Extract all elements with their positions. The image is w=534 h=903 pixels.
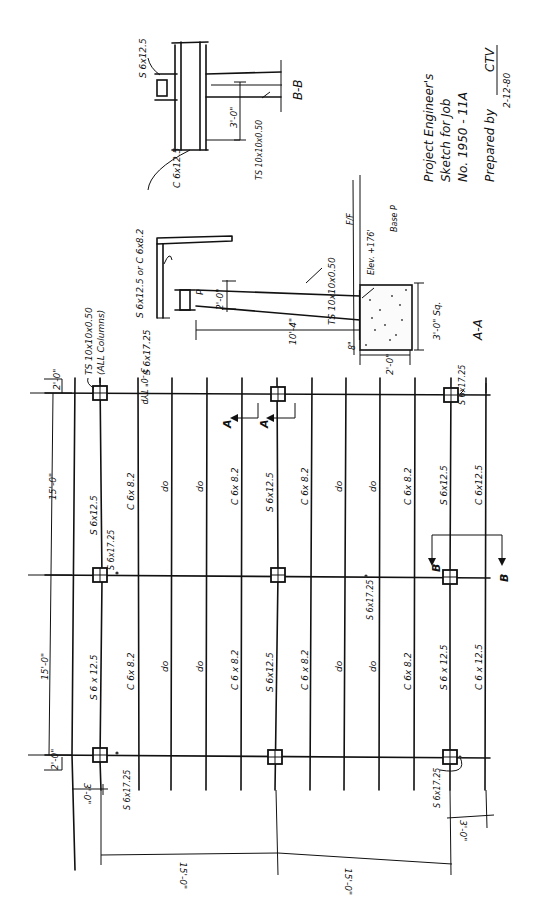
dim-top-left-overhang: 2'-0" (52, 369, 62, 390)
svg-text:A: A (221, 419, 234, 429)
section-bb-dim: 3'-0" (229, 107, 239, 128)
member-label: do (334, 480, 344, 492)
girder-line-6 (275, 378, 278, 790)
column-icon (93, 386, 107, 400)
girder-row-top (45, 393, 490, 395)
member-label: S 6x12.5 (439, 465, 449, 505)
column-icon (271, 387, 285, 401)
member-label: C 6x12.5 (474, 464, 484, 505)
section-aa-plate-label: P (195, 289, 205, 295)
dim-top-right-overhang: 2'-0" (50, 749, 60, 770)
title-block: Project Engineer's Sketch for Job No. 19… (422, 45, 512, 182)
section-aa-footing-size: 3'-0" Sq. (432, 302, 442, 340)
column-icon (93, 568, 107, 582)
title-line1: Project Engineer's (422, 74, 436, 182)
dim-top-bay2: 15'-0" (40, 653, 50, 680)
edge-line-right (485, 378, 486, 790)
girder-label: S 6x17.25 (433, 768, 442, 808)
edge-line-left (72, 378, 75, 870)
section-aa-dim-height: 10'-4" (288, 318, 298, 345)
member-label: do (195, 660, 205, 672)
member-label: S 6 x 12.5 (89, 654, 99, 700)
section-marker-a: A A (221, 403, 295, 429)
svg-text:A: A (258, 419, 271, 429)
section-bb-column-label: TS 10x10x0.50 (255, 120, 264, 180)
member-label: do (368, 660, 378, 672)
title-line2: Sketch for Job (439, 98, 453, 182)
column-note-line2: (ALL Columns) (96, 310, 106, 375)
member-label: C 6 x 8.2 (300, 649, 310, 690)
member-label: C 6x 8.2 (126, 472, 136, 510)
section-bb-channel-label: C 6x12.5 (172, 147, 182, 188)
column-icon (93, 748, 107, 762)
member-label: C 6x 8.2 (403, 467, 413, 505)
dim-line-left (49, 393, 53, 755)
column-note-line1: TS 10x10x0.50 (84, 307, 94, 375)
title-line3: No. 1950 - 11A (456, 92, 470, 182)
girder-label: S 6x17.25 (458, 365, 467, 405)
dim-bottom-bay1: 15'-0" (178, 862, 188, 889)
section-aa-base-plate: Base P (390, 205, 399, 232)
member-label: S 6x12.5 (265, 472, 275, 512)
column-icon (443, 750, 457, 764)
member-label: C 6x 8.2 (126, 652, 136, 690)
section-marker-b: B B (428, 535, 511, 582)
prepared-label: Prepared by (483, 108, 497, 182)
prepared-date: 2-12-80 (502, 73, 512, 108)
member-label: C 6 x 8.2 (230, 649, 240, 690)
girder-row-mid (45, 575, 490, 578)
beam-line-4 (206, 378, 207, 790)
member-label: do (160, 480, 170, 492)
section-aa-elev-label: Elev. +176' (367, 229, 376, 275)
column-icon (268, 750, 282, 764)
dim-line-bottom (101, 853, 452, 864)
girder-label: S 6x17.25 (123, 770, 132, 810)
member-label: C 6x 8.2 (300, 467, 310, 505)
svg-text:B: B (430, 564, 443, 572)
dim-bottom-bay2: 15'-0" (343, 868, 353, 895)
prepared-by: CTV (483, 47, 497, 72)
girder-label: S 6x17.25 (366, 580, 375, 620)
section-aa-dim-8in: 8" (348, 341, 357, 350)
dim-top-bay1: 15'-0" (48, 473, 58, 500)
beam-line-9 (379, 378, 380, 790)
section-aa-title: A-A (471, 319, 485, 341)
beam-line-3 (171, 378, 172, 790)
section-aa-dim-2ft: 2'-0" (215, 289, 225, 310)
beam-line-5 (241, 378, 242, 790)
beam-line-10 (414, 378, 415, 790)
section-bb-labels: S 6x12.5 C 6x12.5 3'-0" TS 10x10x0.50 B-… (138, 38, 305, 188)
beam-line-2 (138, 378, 139, 790)
member-label: do (160, 660, 170, 672)
member-label: S 6x12.5 (265, 652, 275, 692)
column-icon (443, 570, 457, 584)
column-icon (444, 388, 458, 402)
section-aa-column-label: TS 10x10x0.50 (327, 257, 337, 325)
dim-bottom-left-overhang: 3'-0" (82, 783, 92, 804)
member-label: S 6 x 12.5 (439, 644, 449, 690)
girder-line-1 (100, 378, 102, 790)
section-aa-beam-label: S 6x12.5 or C 6x8.2 (135, 229, 145, 318)
member-label: S 6x12.5 (89, 495, 99, 535)
member-label: do (368, 480, 378, 492)
beam-line-8 (344, 378, 346, 790)
girder-label: S 6x17.25 (107, 530, 116, 570)
section-bb-beam-label: S 6x12.5 (138, 38, 148, 78)
section-aa-ff-label: F/F (346, 213, 355, 225)
member-label: do (334, 660, 344, 672)
dim-bottom-right-overhang: 3'-0" (458, 820, 468, 841)
svg-text:B: B (498, 574, 511, 582)
section-aa-girder-label: S 6x17.25 (142, 329, 152, 375)
column-icon (271, 568, 285, 582)
section-bb-title: B-B (291, 79, 305, 100)
beam-line-7 (310, 378, 312, 790)
member-label: do (195, 480, 205, 492)
member-label: C 6 x 12.5 (474, 644, 484, 690)
member-label: C 6x 8.2 (230, 467, 240, 505)
section-aa-dim-base: 2'-0" (385, 354, 395, 375)
member-label: C 6x 8.2 (403, 652, 413, 690)
